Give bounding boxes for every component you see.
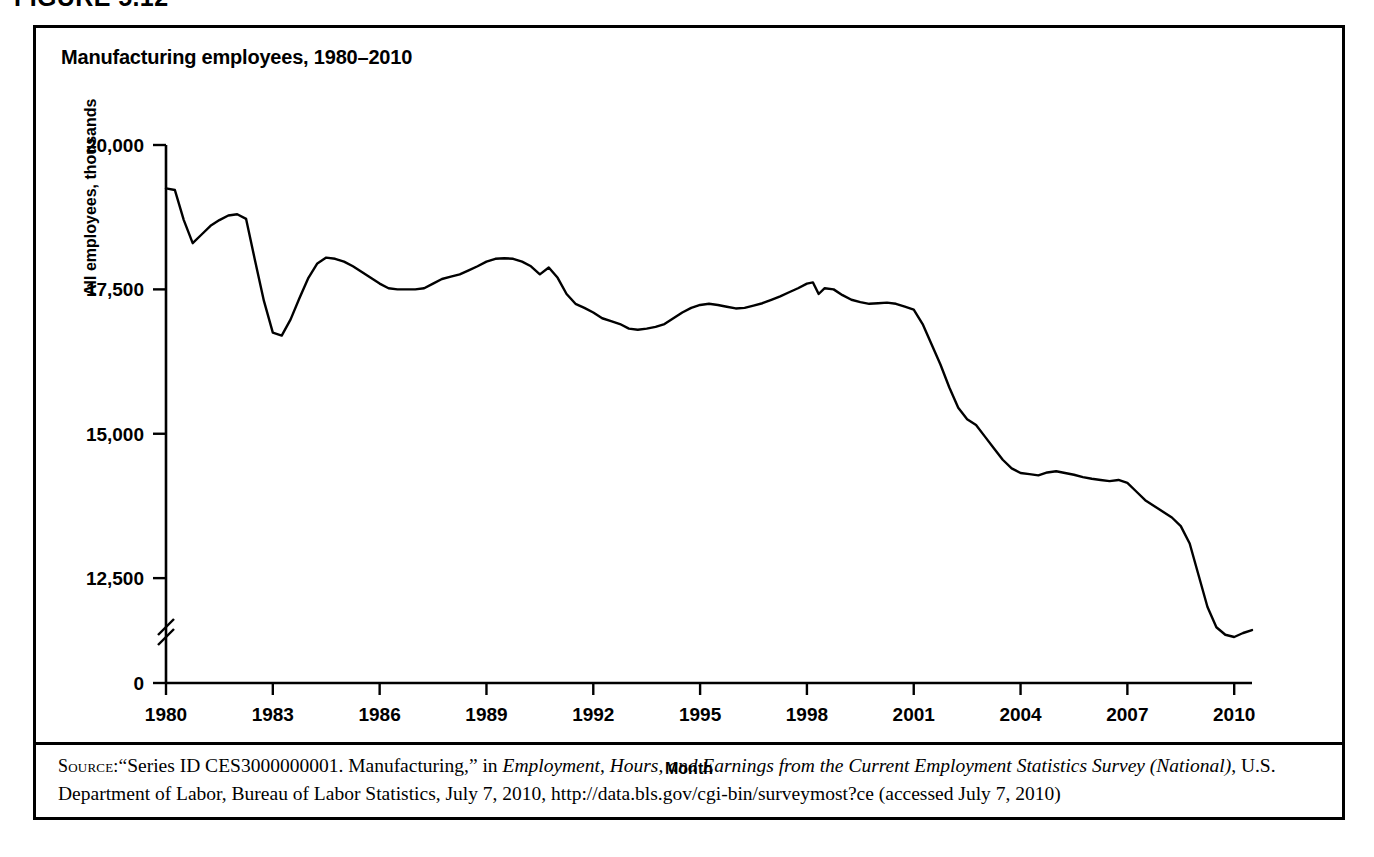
y-tick-label: 20,000 xyxy=(86,135,144,156)
y-tick-label: 12,500 xyxy=(86,568,144,589)
chart-title: Manufacturing employees, 1980–2010 xyxy=(61,46,412,69)
y-axis-ticks: 20,00017,50015,00012,5000 xyxy=(86,135,166,694)
y-tick-label: 17,500 xyxy=(86,279,144,300)
source-text-a: “Series ID CES3000000001. Manufacturing,… xyxy=(118,755,502,776)
x-tick-label: 1980 xyxy=(145,704,187,725)
line-chart-svg: 20,00017,50015,00012,5000 19801983198619… xyxy=(36,83,1342,753)
figure-number: FIGURE 5.12 xyxy=(14,0,168,12)
y-tick-label: 0 xyxy=(133,673,144,694)
y-tick-label: 15,000 xyxy=(86,424,144,445)
x-tick-label: 2010 xyxy=(1213,704,1255,725)
source-divider xyxy=(36,742,1342,745)
x-tick-label: 2004 xyxy=(999,704,1042,725)
source-note: Source:“Series ID CES3000000001. Manufac… xyxy=(58,752,1322,807)
x-tick-label: 2007 xyxy=(1106,704,1148,725)
source-publication-title: Employment, Hours, and Earnings from the… xyxy=(502,755,1231,776)
data-series-line xyxy=(166,188,1252,637)
x-axis-ticks: 1980198319861989199219951998200120042007… xyxy=(145,683,1255,725)
figure-box: Manufacturing employees, 1980–2010 All e… xyxy=(33,25,1345,820)
x-tick-label: 1986 xyxy=(358,704,400,725)
x-tick-label: 1995 xyxy=(679,704,722,725)
x-tick-label: 1983 xyxy=(252,704,294,725)
source-label: Source: xyxy=(58,756,118,776)
x-tick-label: 1992 xyxy=(572,704,614,725)
plot-area: 20,00017,50015,00012,5000 19801983198619… xyxy=(36,83,1342,753)
x-tick-label: 1989 xyxy=(465,704,507,725)
x-tick-label: 2001 xyxy=(893,704,936,725)
x-tick-label: 1998 xyxy=(786,704,828,725)
